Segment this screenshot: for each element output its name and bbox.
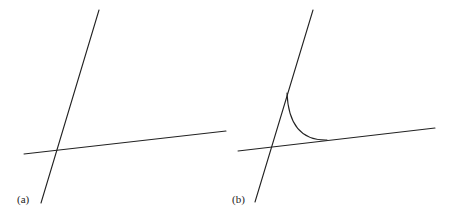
panel-b-steep-line [255, 10, 313, 202]
panel-a-label: (a) [17, 193, 30, 206]
panel-a-shallow-line [24, 131, 226, 154]
panel-b: (b) [232, 10, 435, 206]
panel-b-label: (b) [232, 193, 245, 206]
panel-b-fillet-arc [287, 93, 327, 140]
diagram-canvas: (a) (b) [0, 0, 453, 219]
panel-b-shallow-line [238, 128, 435, 151]
panel-a: (a) [17, 10, 226, 206]
panel-a-steep-line [41, 10, 99, 203]
